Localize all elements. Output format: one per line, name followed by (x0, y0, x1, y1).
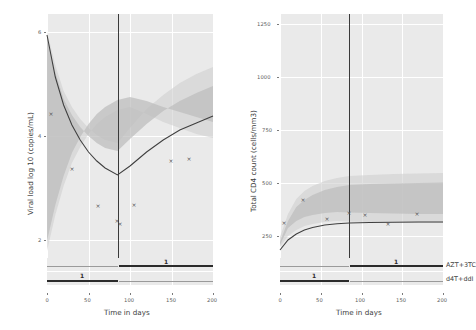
y-axis-title-right: Total CD4 count (cells/mm3) (249, 110, 258, 212)
xtick-label-right-150: 150 (396, 297, 406, 303)
data-point-marker: × (117, 221, 122, 227)
cd4-curve (280, 222, 443, 250)
strip-gridline (402, 272, 403, 285)
data-point-marker: × (346, 210, 351, 216)
xtick-mark (130, 293, 131, 295)
ytick-label-right-750: 750 (262, 127, 272, 133)
strip-baseline-d4tddi-right (350, 281, 443, 282)
data-point-marker: × (362, 212, 367, 218)
xtick-label-left-200: 200 (207, 297, 217, 303)
xtick-label-right-100: 100 (355, 297, 365, 303)
strip-gridline (321, 258, 322, 271)
strip-segment-azt3tc-right (350, 265, 443, 267)
gridline-x-200 (443, 14, 444, 258)
viral-load-plot (47, 14, 213, 258)
cd4-count-plot (280, 14, 443, 258)
xtick-mark (362, 293, 363, 295)
ytick-mark (277, 236, 279, 237)
ytick-mark (44, 32, 46, 33)
treatment-switch-line-right (349, 14, 350, 258)
data-point-marker: × (281, 220, 286, 226)
strip-baseline-azt3tc-left (47, 266, 118, 267)
strip-segment-d4tddi-left (47, 280, 118, 282)
xtick-mark (280, 293, 281, 295)
strip-segment-d4tddi-right (280, 280, 349, 282)
ytick-mark (277, 130, 279, 131)
strip-gridline (89, 258, 90, 271)
viral-load-ci-inner (47, 36, 213, 241)
data-point-marker: × (69, 166, 74, 172)
ytick-mark (277, 77, 279, 78)
strip-count-azt3tc-left: 1 (164, 258, 168, 265)
strip-baseline-azt3tc-right (280, 266, 349, 267)
strip-gridline (321, 272, 322, 285)
xtick-label-left-50: 50 (84, 297, 91, 303)
strip-label-azt3tc: AZT+3TC (446, 261, 476, 269)
ytick-label-left-2: 2 (38, 237, 41, 243)
ytick-label-left-4: 4 (38, 133, 41, 139)
data-point-marker: × (131, 202, 136, 208)
ytick-label-right-250: 250 (262, 233, 272, 239)
xtick-label-left-0: 0 (46, 297, 49, 303)
ytick-label-right-500: 500 (262, 180, 272, 186)
data-point-marker: × (48, 111, 53, 117)
xtick-mark (321, 293, 322, 295)
xtick-mark (172, 293, 173, 295)
xtick-label-left-150: 150 (166, 297, 176, 303)
strip-gridline (130, 272, 131, 285)
ytick-mark (44, 136, 46, 137)
x-axis-title-right: Time in days (336, 308, 382, 317)
xtick-mark (89, 293, 90, 295)
xtick-mark (213, 293, 214, 295)
strip-label-d4tddi: d4T+ddI (446, 275, 473, 283)
strip-count-azt3tc-right: 1 (394, 258, 398, 265)
ytick-mark (277, 24, 279, 25)
y-axis-title-left: Viral load log 10 (copies/mL) (26, 112, 35, 215)
strip-count-d4tddi-right: 1 (312, 272, 316, 279)
strip-gridline (172, 272, 173, 285)
data-point-marker: × (414, 211, 419, 217)
data-point-marker: × (186, 156, 191, 162)
data-point-marker: × (168, 158, 173, 164)
x-axis-title-left: Time in days (104, 308, 150, 317)
ytick-label-right-1000: 1000 (257, 74, 271, 80)
xtick-mark (47, 293, 48, 295)
strip-count-d4tddi-left: 1 (80, 272, 84, 279)
xtick-mark (402, 293, 403, 295)
ytick-mark (277, 183, 279, 184)
data-point-marker: × (385, 221, 390, 227)
strip-gridline (362, 272, 363, 285)
ytick-mark (44, 240, 46, 241)
xtick-label-right-50: 50 (316, 297, 323, 303)
strip-gridline (89, 272, 90, 285)
xtick-label-right-200: 200 (437, 297, 447, 303)
data-point-marker: × (324, 216, 329, 222)
figure-root: × × × × × × × × 6 4 2 Viral load log 10 … (0, 0, 476, 330)
ytick-label-right-1250: 1250 (257, 21, 271, 27)
xtick-mark (443, 293, 444, 295)
xtick-label-right-0: 0 (279, 297, 282, 303)
xtick-label-left-100: 100 (124, 297, 134, 303)
data-point-marker: × (95, 203, 100, 209)
strip-baseline-d4tddi-left (119, 281, 213, 282)
ytick-label-left-6: 6 (38, 29, 41, 35)
strip-segment-azt3tc-left (119, 265, 213, 267)
data-point-marker: × (300, 197, 305, 203)
